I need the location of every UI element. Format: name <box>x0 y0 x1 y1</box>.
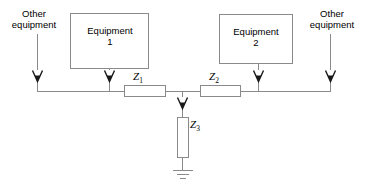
circuit-diagram: Otherequipment Otherequipment Equipment1… <box>0 0 367 187</box>
z3-label: Z3 <box>190 118 200 134</box>
other-equipment-left-line1: Other <box>22 8 46 19</box>
equipment-2-label: Equipment2 <box>220 26 292 48</box>
z1-impedance-block <box>125 86 166 97</box>
other-equipment-right-label: Otherequipment <box>302 8 362 30</box>
z1-subscript: 1 <box>139 76 143 85</box>
other-equipment-left-label: Otherequipment <box>6 8 62 30</box>
other-equipment-right-line1: Other <box>320 8 344 19</box>
other-equipment-left-corner <box>38 82 125 92</box>
equipment-1-line1: Equipment <box>87 25 132 36</box>
equipment-2-line2: 2 <box>253 37 258 48</box>
equipment-1-line2: 1 <box>107 36 112 47</box>
z1-label: Z1 <box>133 70 143 86</box>
z2-label: Z2 <box>209 70 219 86</box>
equipment-1-label: Equipment1 <box>72 25 148 47</box>
z3-impedance-block <box>178 118 189 158</box>
z3-subscript: 3 <box>196 124 200 133</box>
equipment-2-line1: Equipment <box>233 26 278 37</box>
other-equipment-right-line2: equipment <box>310 19 354 30</box>
other-equipment-left-line2: equipment <box>12 19 56 30</box>
z2-impedance-block <box>201 86 241 97</box>
z2-subscript: 2 <box>215 76 219 85</box>
